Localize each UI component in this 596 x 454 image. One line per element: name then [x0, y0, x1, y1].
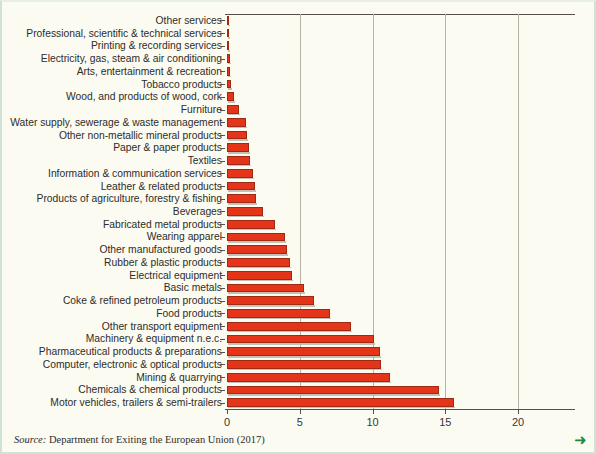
- category-tick: [220, 313, 225, 314]
- bar-row: Tobacco products: [2, 78, 596, 91]
- bar[interactable]: [227, 41, 229, 50]
- bar[interactable]: [227, 194, 256, 203]
- bar[interactable]: [227, 245, 287, 254]
- source-note: Source: Department for Exiting the Europ…: [14, 434, 265, 445]
- category-label: Products of agriculture, forestry & fish…: [37, 192, 222, 205]
- category-label: Chemicals & chemical products: [78, 383, 222, 396]
- category-label: Beverages: [173, 205, 222, 218]
- bar-row: Coke & refined petroleum products: [2, 294, 596, 307]
- category-label: Arts, entertainment & recreation: [77, 65, 222, 78]
- bar[interactable]: [227, 258, 290, 267]
- bar-row: Paper & paper products: [2, 141, 596, 154]
- category-label: Other manufactured goods: [100, 243, 223, 256]
- category-tick: [220, 301, 225, 302]
- bar[interactable]: [227, 118, 246, 127]
- bar[interactable]: [227, 398, 454, 407]
- category-tick: [220, 390, 225, 391]
- bar[interactable]: [227, 92, 234, 101]
- bar-row: Wearing apparel: [2, 231, 596, 244]
- category-label: Wood, and products of wood, cork: [66, 90, 222, 103]
- bar[interactable]: [227, 169, 253, 178]
- bar-row: Electricity, gas, steam & air conditioni…: [2, 52, 596, 65]
- bar-row: Printing & recording services: [2, 39, 596, 52]
- category-tick: [220, 275, 225, 276]
- category-tick: [220, 46, 225, 47]
- category-label: Electricity, gas, steam & air conditioni…: [41, 52, 222, 65]
- bar[interactable]: [227, 373, 390, 382]
- category-label: Machinery & equipment n.e.c.: [86, 332, 222, 345]
- bar-row: Machinery & equipment n.e.c.: [2, 333, 596, 346]
- category-label: Food products: [156, 307, 222, 320]
- x-tick-15: [445, 409, 446, 414]
- bar[interactable]: [227, 360, 381, 369]
- category-tick: [220, 250, 225, 251]
- category-label: Motor vehicles, trailers & semi-trailers: [50, 396, 222, 409]
- bar-row: Other services: [2, 14, 596, 27]
- category-tick: [220, 211, 225, 212]
- category-label: Tobacco products: [141, 78, 222, 91]
- bar-row: Computer, electronic & optical products: [2, 358, 596, 371]
- bar-row: Furniture: [2, 103, 596, 116]
- category-tick: [220, 59, 225, 60]
- category-tick: [220, 33, 225, 34]
- category-label: Professional, scientific & technical ser…: [26, 27, 222, 40]
- bar[interactable]: [227, 296, 314, 305]
- source-label: Source:: [14, 434, 46, 445]
- bar-row: Motor vehicles, trailers & semi-trailers: [2, 396, 596, 409]
- category-label: Paper & paper products: [113, 141, 222, 154]
- category-label: Pharmaceutical products & preparations: [39, 345, 222, 358]
- category-label: Mining & quarrying: [136, 371, 222, 384]
- bar-row: Arts, entertainment & recreation: [2, 65, 596, 78]
- category-tick: [220, 352, 225, 353]
- category-tick: [220, 186, 225, 187]
- category-label: Basic metals: [164, 281, 222, 294]
- bar[interactable]: [227, 207, 263, 216]
- bar[interactable]: [227, 335, 374, 344]
- category-tick: [220, 110, 225, 111]
- bar-row: Wood, and products of wood, cork: [2, 90, 596, 103]
- x-axis-line: [225, 409, 575, 410]
- category-tick: [220, 364, 225, 365]
- category-tick: [220, 237, 225, 238]
- bar[interactable]: [227, 233, 285, 242]
- category-tick: [220, 199, 225, 200]
- bar[interactable]: [227, 16, 229, 25]
- category-label: Wearing apparel: [147, 230, 222, 243]
- category-label: Other non-metallic mineral products: [59, 129, 222, 142]
- x-tick-5: [300, 409, 301, 414]
- category-label: Rubber & plastic products: [104, 256, 222, 269]
- bar[interactable]: [227, 309, 330, 318]
- bar[interactable]: [227, 322, 351, 331]
- bar-row: Leather & related products: [2, 180, 596, 193]
- category-label: Furniture: [181, 103, 222, 116]
- bar[interactable]: [227, 131, 247, 140]
- bar[interactable]: [227, 182, 255, 191]
- bar-row: Basic metals: [2, 282, 596, 295]
- bar[interactable]: [227, 220, 275, 229]
- category-label: Electrical equipment: [129, 269, 222, 282]
- bar[interactable]: [227, 347, 380, 356]
- bar-row: Electrical equipment: [2, 269, 596, 282]
- bar-row: Mining & quarrying: [2, 371, 596, 384]
- bar-row: Pharmaceutical products & preparations: [2, 345, 596, 358]
- bar[interactable]: [227, 105, 239, 114]
- bar-row: Professional, scientific & technical ser…: [2, 27, 596, 40]
- bar[interactable]: [227, 80, 231, 89]
- category-tick: [220, 262, 225, 263]
- bar[interactable]: [227, 29, 229, 38]
- category-label: Computer, electronic & optical products: [43, 358, 222, 371]
- category-tick: [220, 20, 225, 21]
- bar[interactable]: [227, 271, 292, 280]
- bar[interactable]: [227, 54, 230, 63]
- bar[interactable]: [227, 386, 439, 395]
- category-tick: [220, 161, 225, 162]
- bar[interactable]: [227, 67, 230, 76]
- bar[interactable]: [227, 156, 250, 165]
- next-arrow-icon[interactable]: ➜: [572, 432, 588, 448]
- category-label: Coke & refined petroleum products: [63, 294, 222, 307]
- bar[interactable]: [227, 284, 304, 293]
- bar-row: Other manufactured goods: [2, 243, 596, 256]
- category-tick: [220, 377, 225, 378]
- bar[interactable]: [227, 143, 249, 152]
- chart-figure: Other servicesProfessional, scientific &…: [0, 0, 596, 454]
